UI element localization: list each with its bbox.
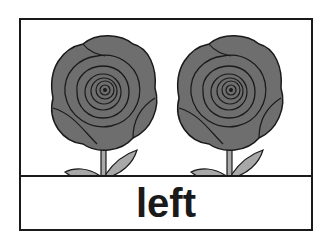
word-label: left: [21, 177, 311, 229]
rose-image-right: [178, 36, 283, 175]
flash-card: left: [19, 18, 313, 231]
picture-area: [21, 20, 311, 175]
rose-image-left: [52, 36, 157, 175]
